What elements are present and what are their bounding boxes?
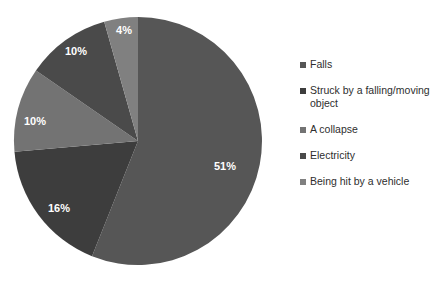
pie-plot-area: 51%16%10%10%4% [0, 0, 290, 286]
pie-slice-value-label: 10% [65, 45, 87, 57]
legend-item[interactable]: Falls [300, 58, 443, 71]
pie-svg: 51%16%10%10%4% [0, 0, 290, 286]
chart-legend: FallsStruck by a falling/moving objectA … [300, 58, 443, 201]
legend-item-label: Falls [310, 58, 332, 71]
legend-item-label: A collapse [310, 123, 358, 136]
legend-swatch-icon [300, 179, 306, 185]
legend-item-label: Being hit by a vehicle [310, 175, 409, 188]
legend-item-label: Struck by a falling/moving object [310, 84, 430, 110]
legend-swatch-icon [300, 127, 306, 133]
legend-item-label: Electricity [310, 149, 355, 162]
legend-item[interactable]: Struck by a falling/moving object [300, 84, 443, 110]
pie-slice-value-label: 51% [214, 160, 236, 172]
legend-item[interactable]: Electricity [300, 149, 443, 162]
pie-slice-value-label: 10% [24, 115, 46, 127]
legend-swatch-icon [300, 62, 306, 68]
pie-chart: 51%16%10%10%4% FallsStruck by a falling/… [0, 0, 443, 286]
legend-item[interactable]: Being hit by a vehicle [300, 175, 443, 188]
legend-swatch-icon [300, 88, 306, 94]
pie-slice-value-label: 16% [48, 202, 70, 214]
legend-swatch-icon [300, 153, 306, 159]
legend-item[interactable]: A collapse [300, 123, 443, 136]
pie-slice-value-label: 4% [116, 24, 132, 36]
pie-slice-group [14, 17, 262, 265]
